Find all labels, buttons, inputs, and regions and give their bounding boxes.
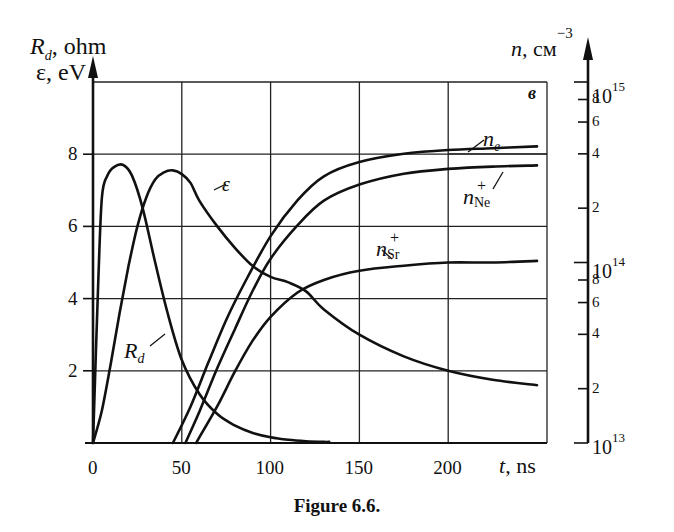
rd-unit: , ohm [52,33,107,59]
rd-curve-sub: d [137,351,144,366]
nsr-sub: Sr [387,248,399,262]
left-y-tick-label: 4 [68,289,78,308]
left-y-tick-label: 6 [68,216,78,235]
right-minor-tick-label: 6 [592,295,600,310]
label-ne: ne [483,128,500,154]
figure-caption: Figure 6.6. [0,495,674,517]
left-y-tick-label: 2 [68,361,78,380]
ne-base: n [483,126,494,151]
x-tick-label: 100 [256,458,285,477]
nne-sub: Ne [474,196,490,210]
t-unit: , ns [505,453,536,478]
rd-symbol: R [30,33,45,59]
right-minor-tick-label: 8 [592,272,600,287]
right-minor-tick-label: 4 [592,146,600,161]
label-nSr: n + Sr [376,238,409,260]
nsr-base: n [376,236,387,261]
curve- [93,170,537,443]
label-rd: Rd [124,340,144,366]
label-epsilon: ε [222,174,230,194]
nne-sup: + [477,178,486,194]
right-minor-tick-label: 6 [592,114,600,129]
n-symbol: n, [511,36,528,61]
leader-line [150,334,165,346]
right-minor-tick-label: 8 [592,91,600,106]
x-axis-label: t, ns [499,455,536,477]
left-y-tick-label: 8 [68,144,78,163]
chart-canvas [0,0,674,532]
x-tick-label: 150 [344,458,373,477]
nne-base: n [463,184,474,209]
leader-line [468,140,484,152]
right-axis-label: n, см−3 [511,36,573,60]
right-minor-tick-label: 4 [592,326,600,341]
curve-nsr [196,261,537,443]
label-leader-lines [150,140,503,346]
right-axis-arrow-icon [583,37,593,60]
right-major-tick-label: 1013 [592,435,625,457]
x-tick-label: 200 [433,458,462,477]
x-tick-label: 50 [172,458,191,477]
x-tick-label: 0 [88,458,98,477]
right-minor-tick-label: 2 [592,381,600,396]
ne-sub: e [494,139,500,154]
left-axis-label-eps: ε, eV [36,60,86,84]
panel-label: в [528,84,536,102]
nsr-sup: + [390,230,399,246]
rd-curve-base: R [124,338,137,363]
n-unit-exponent: −3 [557,25,573,41]
n-unit: см [533,36,557,61]
label-nNe: n + Ne [463,186,496,208]
right-minor-tick-label: 2 [592,200,600,215]
